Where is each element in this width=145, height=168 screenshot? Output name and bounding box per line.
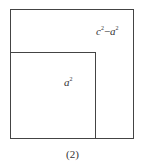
figure-caption: (2) (0, 148, 145, 160)
exponent: 2 (116, 25, 119, 31)
outer-region-label: c2−a2 (96, 25, 119, 37)
exponent: 2 (70, 76, 73, 82)
inner-region-label: a2 (64, 76, 73, 88)
inner-square-a2 (10, 52, 96, 139)
